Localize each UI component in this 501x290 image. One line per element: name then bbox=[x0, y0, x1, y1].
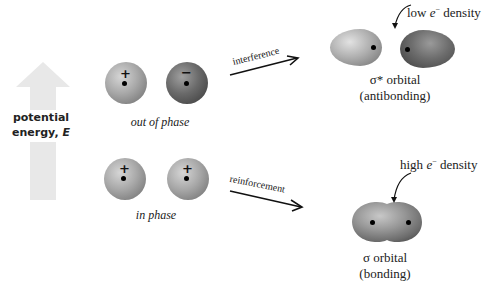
nucleus-dot bbox=[122, 81, 127, 86]
nucleus-dot bbox=[371, 45, 376, 50]
nucleus-dot bbox=[121, 176, 126, 181]
high-density-pointer-arrow-icon bbox=[385, 170, 415, 206]
energy-symbol: E bbox=[62, 126, 70, 139]
sigma-star-orbital-label: σ* orbital bbox=[340, 72, 450, 88]
potential-energy-label: potential energy, E bbox=[4, 110, 78, 140]
energy-label-line1: potential bbox=[4, 110, 78, 125]
in-phase-caption: in phase bbox=[106, 208, 206, 223]
nucleus-dot bbox=[370, 220, 375, 225]
nucleus-dot bbox=[406, 220, 411, 225]
sigma-orbital-label: σ orbital bbox=[335, 250, 435, 266]
bonding-caption: σ orbital (bonding) bbox=[335, 250, 435, 282]
energy-label-line2: energy, E bbox=[4, 125, 78, 140]
nucleus-dot bbox=[184, 81, 189, 86]
low-density-label: low e− density bbox=[407, 5, 481, 21]
antibonding-type-label: (antibonding) bbox=[340, 88, 450, 104]
nucleus-dot bbox=[184, 176, 189, 181]
nucleus-dot bbox=[405, 47, 410, 52]
antibonding-caption: σ* orbital (antibonding) bbox=[340, 72, 450, 104]
plus-sign-icon: + bbox=[119, 162, 130, 175]
minus-sign-icon: − bbox=[181, 66, 192, 79]
high-density-label: high e− density bbox=[400, 157, 477, 173]
bonding-type-label: (bonding) bbox=[335, 266, 435, 282]
out-of-phase-caption: out of phase bbox=[110, 115, 210, 130]
bonding-orbital bbox=[350, 200, 430, 245]
plus-sign-icon: + bbox=[182, 162, 193, 175]
plus-sign-icon: + bbox=[120, 67, 131, 80]
